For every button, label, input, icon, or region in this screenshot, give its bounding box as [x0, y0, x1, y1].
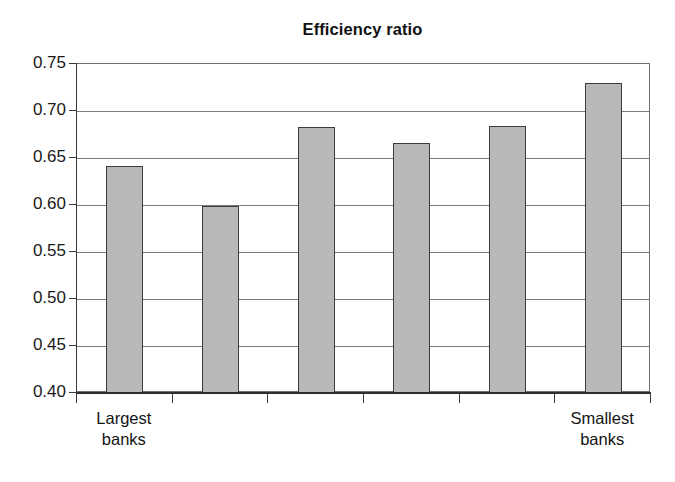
chart-figure: Efficiency ratio 0.750.700.650.600.550.5…: [0, 0, 675, 482]
y-axis-tick-mark: [69, 345, 76, 346]
category-label-line: Smallest: [532, 408, 672, 429]
plot-area: [76, 63, 650, 392]
y-axis-tick-mark: [69, 157, 76, 158]
y-axis-tick-mark: [69, 204, 76, 205]
y-axis-tick-mark: [69, 251, 76, 252]
category-label-line: banks: [532, 429, 672, 450]
y-axis-line: [76, 63, 77, 393]
bar: [202, 206, 239, 393]
y-axis-tick-mark: [69, 110, 76, 111]
y-axis-tick-label: 0.75: [4, 54, 66, 71]
y-axis-tick-label: 0.65: [4, 148, 66, 165]
category-label-line: Largest: [54, 408, 194, 429]
y-axis-tick-mark: [69, 392, 76, 393]
bar: [585, 83, 622, 393]
y-axis-tick-label: 0.50: [4, 289, 66, 306]
x-axis-tick-mark: [363, 394, 364, 403]
category-label-line: banks: [54, 429, 194, 450]
y-axis-tick-label: 0.45: [4, 336, 66, 353]
chart-title: Efficiency ratio: [75, 20, 650, 39]
gridline: [77, 158, 649, 159]
gridline: [77, 299, 649, 300]
y-axis-tick-label: 0.70: [4, 101, 66, 118]
x-axis-tick-mark: [650, 394, 651, 403]
gridline: [77, 346, 649, 347]
bar: [393, 143, 430, 393]
y-axis-tick-mark: [69, 63, 76, 64]
y-axis-tick-label: 0.60: [4, 195, 66, 212]
y-axis-tick-label: 0.40: [4, 383, 66, 400]
y-axis-tick-mark: [69, 298, 76, 299]
bar: [298, 127, 335, 393]
x-axis-category-label: Smallestbanks: [532, 408, 672, 449]
x-axis-category-label: Largestbanks: [54, 408, 194, 449]
x-axis-tick-mark: [459, 394, 460, 403]
x-axis-tick-mark: [76, 394, 77, 403]
bar: [489, 126, 526, 393]
gridline: [77, 205, 649, 206]
x-axis-tick-mark: [554, 394, 555, 403]
gridline: [77, 252, 649, 253]
x-axis-tick-mark: [267, 394, 268, 403]
y-axis-tick-label: 0.55: [4, 242, 66, 259]
x-axis-tick-mark: [172, 394, 173, 403]
gridline: [77, 111, 649, 112]
bar: [106, 166, 143, 393]
